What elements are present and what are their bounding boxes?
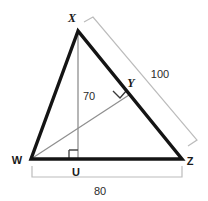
- vertex-label-z: Z: [187, 155, 194, 167]
- vertex-label-y: Y: [127, 76, 136, 90]
- vertex-label-x: X: [67, 11, 77, 25]
- triangle-figure-svg: X W Z Y U 70 100 80: [0, 0, 208, 201]
- geometry-diagram: X W Z Y U 70 100 80: [0, 0, 208, 201]
- wz-measure-bracket: [32, 166, 182, 177]
- xz-measure-bracket: [84, 17, 197, 146]
- vertex-label-w: W: [12, 154, 23, 166]
- wz-bracket-path: [32, 166, 182, 177]
- measure-label-side-xz: 100: [151, 68, 169, 80]
- measure-label-base-wz: 80: [94, 185, 106, 197]
- vertex-label-u: U: [72, 166, 80, 178]
- xz-bracket-path: [84, 17, 197, 146]
- cevian-segment-wy: [31, 95, 129, 159]
- measure-label-altitude: 70: [83, 90, 95, 102]
